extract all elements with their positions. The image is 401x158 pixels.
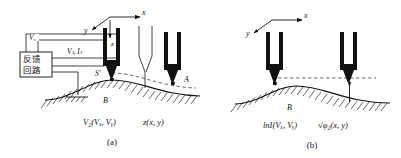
panel-b-output-left: lnI(Vₓ, Vᵧ)	[263, 120, 297, 130]
axis-label-z: z	[110, 40, 114, 48]
surface-hatch-icon-b	[231, 86, 387, 112]
panel-b: x y	[231, 11, 390, 150]
axis-label-y-b: y	[245, 29, 250, 38]
label-surface-b-a: B	[103, 96, 108, 105]
label-surface-b-b: B	[287, 103, 292, 112]
feedback-box-line2: 回路	[23, 65, 41, 75]
label-point-s-prime: S′	[95, 69, 101, 78]
stm-modes-diagram: x y z 反馈 回路 Vs Vₜ, Iₜ	[0, 0, 401, 158]
stm-tip-a2	[164, 32, 181, 86]
figure-root: x y z 反馈 回路 Vs Vₜ, Iₜ	[0, 0, 401, 158]
axis-arrow-y-icon-b	[254, 20, 272, 33]
stm-tip-a-outline	[139, 26, 152, 88]
panel-a: x y z 反馈 回路 Vs Vₜ, Iₜ	[20, 8, 200, 147]
panel-a-output-right: z(x, y)	[142, 117, 164, 127]
sample-surface-a: B	[41, 80, 200, 108]
axis-label-x-b: x	[303, 11, 308, 20]
surface-profile-b	[235, 86, 390, 104]
feedback-box-line1: 反馈	[23, 54, 41, 64]
sample-surface-b: B	[231, 86, 390, 112]
label-tunnel-voltage-current: Vₜ, Iₜ	[67, 47, 83, 56]
axis-label-x: x	[141, 8, 146, 17]
stm-tip-b2	[340, 32, 357, 102]
axis-arrow-y-icon	[92, 17, 110, 30]
panel-b-output-right: √φ₂(x, y)	[318, 120, 348, 130]
axis-group-b: x y	[245, 11, 308, 38]
ground-icon	[66, 97, 88, 102]
panel-b-caption: (b)	[307, 140, 318, 150]
label-point-a: A	[183, 75, 189, 84]
stm-tip-a1	[103, 28, 120, 82]
panel-a-caption: (a)	[107, 137, 117, 147]
axis-group-a: x y z	[83, 8, 146, 48]
panel-a-output-left: V₂(Vₓ, Vᵧ)	[83, 117, 116, 127]
